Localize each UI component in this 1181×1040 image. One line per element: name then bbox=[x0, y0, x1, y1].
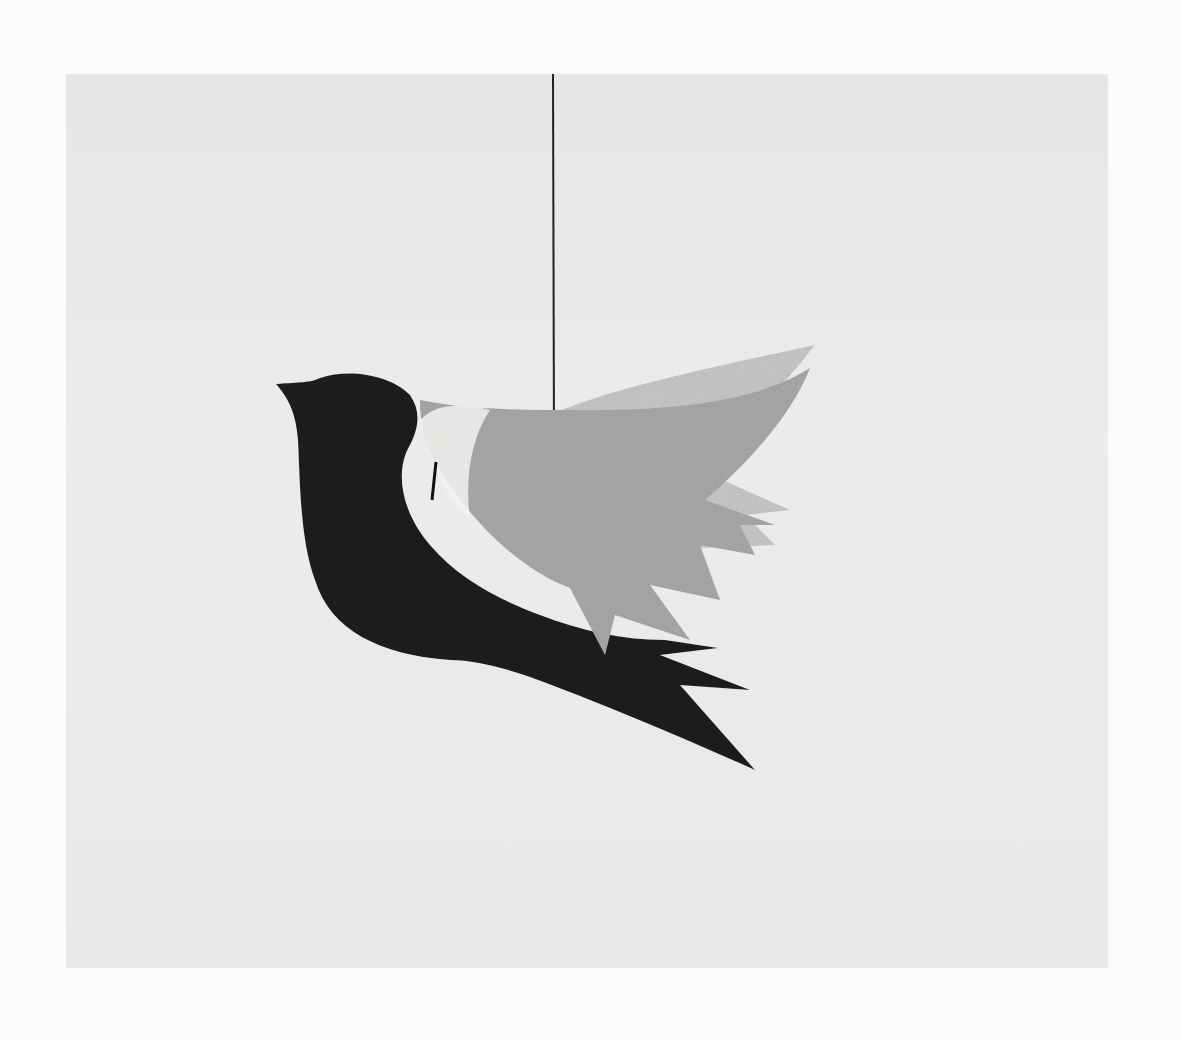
hanging-string bbox=[553, 74, 554, 440]
photograph bbox=[66, 74, 1108, 968]
wing-slot bbox=[432, 462, 436, 500]
dove-illustration bbox=[66, 74, 1108, 968]
